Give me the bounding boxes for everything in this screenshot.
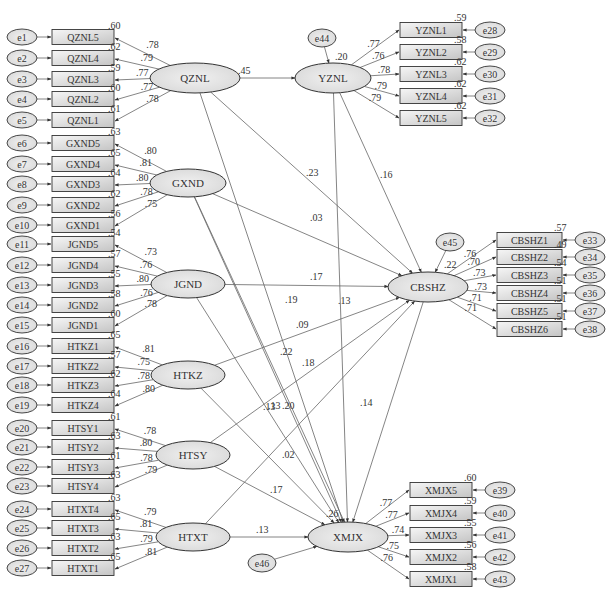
path-coefficient: .09: [296, 319, 309, 330]
r-squared: .65: [108, 511, 121, 522]
latent-variable-label: HTXT: [178, 531, 208, 543]
error-term-label: e23: [15, 481, 29, 492]
observed-variable-label: HTXT3: [67, 523, 99, 534]
r-squared: .65: [108, 329, 121, 340]
factor-loading: .80: [136, 172, 149, 183]
path-coefficient: .18: [302, 357, 315, 368]
observed-variable-label: HTKZ4: [67, 400, 99, 411]
r-squared: .62: [108, 188, 121, 199]
factor-loading: .80: [137, 273, 150, 284]
r-squared: .64: [108, 167, 121, 178]
error-term-label: e4: [17, 94, 26, 105]
observed-variable-label: YZNL1: [415, 25, 447, 36]
error-term-label: e15: [15, 320, 29, 331]
factor-loading: .78: [140, 452, 153, 463]
factor-loading: .77: [385, 509, 398, 520]
error-term-label: e5: [17, 115, 26, 126]
factor-loading: .70: [467, 256, 480, 267]
r-squared: .26: [326, 508, 339, 519]
r-squared: .57: [554, 222, 567, 233]
observed-variable-label: HTKZ1: [67, 341, 99, 352]
error-term-label: e40: [493, 508, 507, 519]
factor-loading: .79: [140, 533, 153, 544]
error-term-label: e39: [493, 485, 507, 496]
r-squared: .65: [108, 147, 121, 158]
factor-loading: .78: [378, 64, 391, 75]
observed-variable-label: CBSHZ4: [511, 288, 548, 299]
path-coefficient: .02: [282, 449, 295, 460]
error-term-label: e33: [583, 235, 597, 246]
factor-loading: .76: [372, 50, 385, 61]
factor-loading: .77: [136, 67, 149, 78]
r-squared: .58: [464, 561, 477, 572]
error-term-label: e10: [15, 220, 29, 231]
disturbance-label: e44: [315, 33, 329, 44]
r-squared: .65: [108, 551, 121, 562]
r-squared: .60: [464, 472, 477, 483]
r-squared: .63: [108, 531, 121, 542]
factor-loading: .79: [145, 464, 158, 475]
r-squared: .57: [108, 248, 121, 259]
factor-loading: .78: [138, 370, 151, 381]
factor-loading: .77: [380, 497, 393, 508]
observed-variable-label: HTXT2: [67, 543, 99, 554]
observed-variable-label: HTSY2: [67, 442, 98, 453]
error-term-label: e35: [583, 270, 597, 281]
r-squared: .51: [554, 311, 567, 322]
error-term-label: e17: [15, 361, 29, 372]
observed-variable-label: GXND2: [66, 200, 100, 211]
r-squared: .55: [464, 517, 477, 528]
structural-path-arrow: [211, 92, 413, 273]
factor-loading: .78: [146, 93, 159, 104]
latent-variable-label: HTSY: [179, 449, 208, 461]
factor-loading: .78: [140, 186, 153, 197]
observed-variable-label: JGND5: [68, 239, 99, 250]
error-term-label: e38: [583, 324, 597, 335]
factor-loading: .81: [140, 518, 153, 529]
factor-loading: .76: [140, 287, 153, 298]
factor-loading: .73: [144, 246, 157, 257]
observed-variable-label: HTXT4: [67, 504, 99, 515]
r-squared: .58: [454, 34, 467, 45]
observed-variable-label: QZNL4: [67, 53, 99, 64]
loading-arrow: [115, 385, 163, 406]
r-squared: .62: [108, 368, 121, 379]
factor-loading: .78: [146, 39, 159, 50]
factor-loading: .80: [140, 437, 153, 448]
factor-loading: .79: [369, 92, 382, 103]
r-squared: .54: [108, 227, 121, 238]
factor-loading: .74: [392, 524, 405, 535]
disturbance-arrow: [275, 546, 317, 559]
observed-variable-label: YZNL5: [415, 113, 447, 124]
path-coefficient: .03: [310, 212, 323, 223]
observed-variable-label: QZNL2: [67, 94, 99, 105]
observed-variable-label: CBSHZ3: [511, 270, 548, 281]
observed-variable-label: HTSY1: [67, 423, 98, 434]
error-term-label: e27: [15, 563, 29, 574]
error-term-label: e13: [15, 280, 29, 291]
loading-arrow: [115, 91, 171, 121]
r-squared: .56: [108, 208, 121, 219]
path-coefficient: .23: [306, 167, 319, 178]
r-squared: .64: [108, 388, 121, 399]
observed-variable-label: CBSHZ5: [511, 306, 548, 317]
sem-diagram-svg: e1QZNL5e2QZNL4e3QZNL3e4QZNL2e5QZNL1e6GXN…: [0, 0, 607, 596]
error-term-label: e21: [15, 442, 29, 453]
path-coefficient: .13: [268, 400, 281, 411]
r-squared: .56: [464, 539, 477, 550]
observed-variable-label: YZNL4: [415, 91, 447, 102]
latent-variable-label: JGND: [174, 278, 202, 290]
r-squared: .57: [108, 349, 121, 360]
error-term-label: e43: [493, 574, 507, 585]
factor-loading: .77: [141, 81, 154, 92]
observed-variable-label: JGND1: [68, 320, 99, 331]
structural-path-arrow: [213, 194, 402, 276]
factor-loading: .76: [381, 552, 394, 563]
error-term-label: e12: [15, 260, 29, 271]
nodes: e1QZNL5e2QZNL4e3QZNL3e4QZNL2e5QZNL1e6GXN…: [7, 22, 605, 587]
observed-variable-label: XMJX4: [425, 508, 457, 519]
r-squared: .61: [108, 411, 121, 422]
error-term-label: e11: [15, 239, 29, 250]
r-squared: .60: [108, 82, 121, 93]
error-term-label: e19: [15, 400, 29, 411]
